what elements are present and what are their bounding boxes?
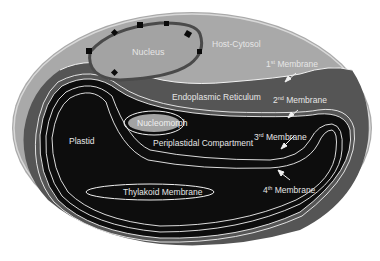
label-plastid: Plastid	[69, 137, 95, 146]
ordinal-suffix: st	[271, 59, 275, 65]
ordinal-suffix: nd	[278, 95, 284, 101]
membrane-word: Membrane	[286, 95, 327, 105]
label-thylakoid-membrane: Thylakoid Membrane	[123, 188, 202, 197]
label-first-membrane: 1st Membrane	[266, 60, 318, 69]
label-periplastidal-compartment: Periplastidal Compartment	[153, 139, 253, 148]
ordinal-suffix: th	[268, 185, 273, 191]
label-nucleus: Nucleus	[132, 48, 165, 57]
label-nucleomorph: Nucleomorph	[137, 119, 188, 128]
ordinal-suffix: rd	[259, 132, 264, 138]
label-second-membrane: 2nd Membrane	[273, 96, 327, 105]
label-third-membrane: 3rd Membrane	[254, 133, 307, 142]
membrane-word: Membrane	[275, 185, 316, 195]
membrane-word: Membrane	[266, 132, 307, 142]
label-host-cytosol: Host-Cytosol	[212, 40, 261, 49]
diagram-canvas	[0, 0, 380, 261]
label-fourth-membrane: 4th Membrane	[263, 186, 315, 195]
membrane-word: Membrane	[277, 59, 318, 69]
label-endoplasmic-reticulum: Endoplasmic Reticulum	[172, 93, 261, 102]
